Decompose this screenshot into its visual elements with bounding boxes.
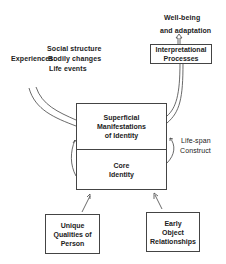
interpretational-line2: Processes: [163, 54, 198, 63]
outcome-line1: Well-being: [164, 13, 200, 22]
experiences-item-0: Social structure: [47, 44, 102, 53]
early-arrow: [155, 195, 162, 209]
experiences-item-2: Life events: [49, 64, 87, 73]
superficial-line3: of Identity: [105, 131, 138, 140]
outcome-arrow: [176, 34, 182, 44]
early-line2: Object: [162, 228, 184, 237]
interpretational-line1: Interpretational: [156, 45, 207, 54]
unique-line1: Unique: [61, 221, 85, 230]
interpretational-processes-box: Interpretational Processes: [150, 44, 212, 64]
lifespan-line2: Construct: [180, 146, 211, 155]
unique-arrow: [82, 196, 90, 212]
right-loop-arrow: [167, 138, 174, 163]
core-line2: Identity: [109, 170, 134, 179]
unique-qualities-box: Unique Qualities of Person: [45, 214, 100, 254]
unique-line2: Qualities of: [53, 230, 91, 239]
unique-line3: Person: [61, 239, 85, 248]
early-line3: Relationships: [150, 237, 196, 246]
superficial-line2: Manifestations: [97, 122, 146, 131]
superficial-line1: Superficial: [104, 113, 140, 122]
early-line1: Early: [164, 219, 181, 228]
experiences-arrow-outer: [29, 88, 76, 126]
experiences-arrow-inner: [36, 87, 76, 120]
lifespan-line1: Life-span: [181, 136, 211, 145]
outcome-line2: and adaptation: [160, 26, 211, 35]
experiences-item-1: Bodily changes: [48, 54, 101, 63]
core-line1: Core: [114, 161, 130, 170]
core-identity-box: Core Identity: [76, 149, 167, 190]
superficial-identity-box: Superficial Manifestations of Identity: [76, 103, 167, 150]
early-object-relationships-box: Early Object Relationships: [146, 212, 200, 252]
